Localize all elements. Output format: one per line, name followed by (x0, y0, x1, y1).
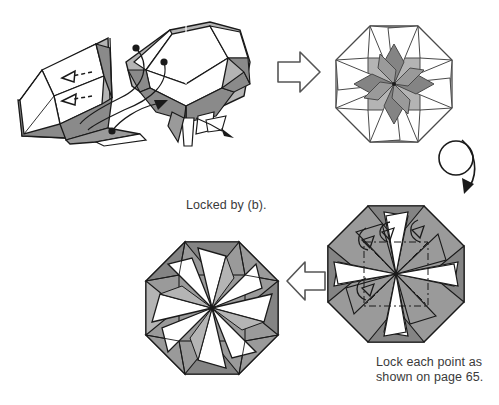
arrow-turn-over (439, 140, 475, 194)
arrow-hollow-left (287, 262, 325, 300)
origami-diagram-page: Locked by (b). Lock each point asshown o… (0, 0, 499, 405)
caption-line-1: Lock each point as (376, 355, 482, 369)
caption-line-2: shown on page 65. (376, 370, 483, 384)
caption-lock-each-point: Lock each point asshown on page 65. (376, 355, 483, 385)
caption-locked-by: Locked by (b). (186, 198, 267, 213)
arrow-hollow-right (278, 52, 320, 92)
